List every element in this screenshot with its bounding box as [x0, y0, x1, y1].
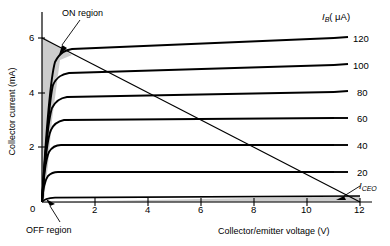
y-tick-label-2: 2	[29, 142, 34, 152]
transistor-characteristic-chart: Collector current (mA) Collector/emitter…	[0, 0, 390, 246]
legend-item-20: 20	[357, 167, 368, 178]
x-tick-label-10: 10	[301, 205, 312, 215]
curve-ib-80	[42, 92, 334, 202]
legend-item-100: 100	[353, 60, 369, 71]
x-tick-label-4: 4	[145, 205, 150, 215]
iceo-annotation: ICEO	[359, 180, 377, 192]
curve-ib-60	[42, 118, 334, 202]
x-tick-label-2: 2	[92, 205, 97, 215]
off-region-annotation: OFF region	[26, 226, 72, 235]
iceo-subscript: CEO	[362, 185, 377, 192]
x-tick-label-8: 8	[251, 205, 256, 215]
curve-ib-40	[42, 145, 334, 202]
legend-title: IB( μA)	[322, 11, 350, 23]
y-axis-title: Collector current (mA)	[8, 47, 17, 177]
legend-dashes	[334, 37, 348, 172]
x-tick-label-12: 12	[354, 205, 365, 215]
curve-ib-100	[42, 65, 334, 202]
on-region-annotation: ON region	[62, 9, 103, 18]
legend-units: ( μA)	[329, 11, 350, 22]
legend-item-80: 80	[357, 87, 368, 98]
chart-plot-area	[0, 0, 390, 246]
legend-item-40: 40	[357, 140, 368, 151]
y-tick-label-0: 0	[30, 204, 35, 214]
y-tick-label-6: 6	[29, 33, 34, 43]
legend-item-120: 120	[353, 33, 369, 44]
x-axis-title: Collector/emitter voltage (V)	[218, 227, 330, 236]
y-tick-label-4: 4	[29, 88, 34, 98]
x-tick-label-6: 6	[198, 205, 203, 215]
legend-item-60: 60	[357, 113, 368, 124]
